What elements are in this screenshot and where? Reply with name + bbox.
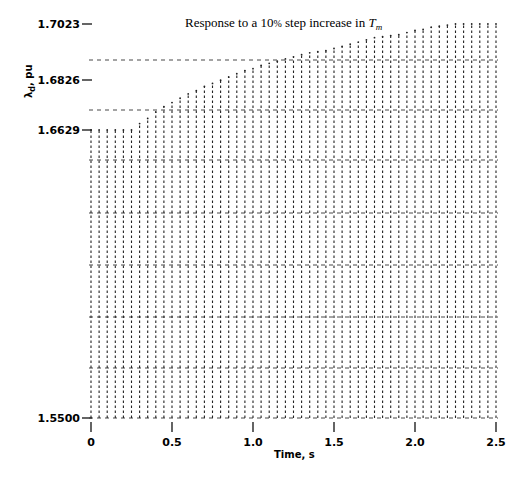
data-point [123, 129, 125, 131]
data-point [414, 30, 416, 32]
data-point [98, 129, 100, 131]
data-point [366, 39, 368, 41]
data-point [276, 60, 278, 62]
data-point [90, 129, 92, 131]
data-point [252, 68, 254, 70]
x-tick-label: 0 [87, 436, 95, 449]
data-point [236, 73, 238, 75]
data-point [325, 50, 327, 52]
data-point [268, 62, 270, 64]
y-axis: 1.70231.68261.66291.5500 [38, 18, 92, 425]
chart-title: Response to a 10% step increase in Tm [185, 15, 383, 32]
data-point [463, 23, 465, 25]
data-point [471, 23, 473, 25]
data-point [260, 65, 262, 67]
data-point [438, 25, 440, 27]
data-point [479, 23, 481, 25]
data-point [447, 24, 449, 26]
data-point [195, 90, 197, 92]
data-point [333, 48, 335, 50]
data-point [495, 23, 497, 25]
data-point [341, 45, 343, 47]
data-point [301, 54, 303, 56]
data-point [390, 35, 392, 37]
data-point [187, 93, 189, 95]
data-point [155, 111, 157, 113]
data-columns [90, 23, 497, 418]
data-point [139, 123, 141, 125]
x-axis: 00.51.01.52.02.5 [87, 422, 506, 449]
x-tick-label: 0.5 [162, 436, 182, 449]
data-point [430, 26, 432, 28]
data-point [220, 79, 222, 81]
data-point [406, 32, 408, 34]
data-point [293, 56, 295, 58]
data-point [131, 129, 133, 131]
data-point [163, 106, 165, 108]
x-tick-label: 2.5 [486, 436, 506, 449]
data-point [374, 37, 376, 39]
data-point [382, 36, 384, 38]
data-point [212, 83, 214, 85]
gridlines [89, 60, 498, 418]
data-point [114, 129, 116, 131]
data-point [455, 23, 457, 25]
data-point [398, 34, 400, 36]
data-point [179, 97, 181, 99]
x-tick-label: 1.5 [324, 436, 344, 449]
step-response-chart: Response to a 10% step increase in Tm 1.… [0, 0, 525, 477]
data-point [244, 70, 246, 72]
x-tick-label: 2.0 [405, 436, 425, 449]
y-tick-label: 1.6629 [38, 124, 80, 137]
data-point [285, 58, 287, 60]
data-point [228, 76, 230, 78]
y-axis-label: λd, pu [23, 64, 37, 98]
data-point [171, 102, 173, 104]
data-point [147, 118, 149, 120]
y-tick-label: 1.5500 [38, 412, 81, 425]
data-point [422, 28, 424, 30]
x-tick-label: 1.0 [243, 436, 263, 449]
y-tick-label: 1.6826 [38, 74, 81, 87]
data-point [309, 52, 311, 54]
y-tick-label: 1.7023 [38, 18, 80, 31]
data-point [487, 23, 489, 25]
x-axis-label: Time, s [274, 449, 315, 460]
data-point [204, 86, 206, 88]
data-point [106, 129, 108, 131]
data-point [357, 41, 359, 43]
data-point [349, 43, 351, 45]
data-point [317, 51, 319, 53]
